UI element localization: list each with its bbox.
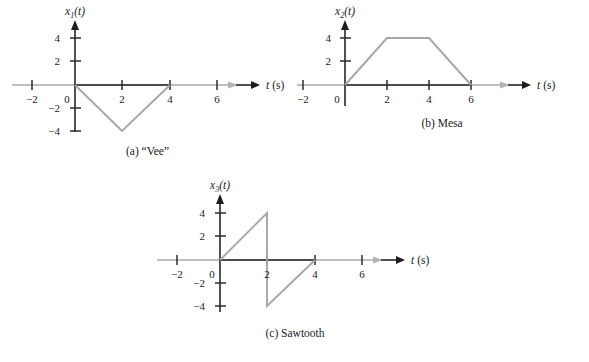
vee-plot-svg: −2 2 4 6 0 4 2 −2 −4 x1(t) t(s): [0, 0, 295, 140]
x-tick-label-4: 4: [312, 268, 318, 280]
mesa-plot-svg: −2 2 4 6 0 4 2 x2(t) t(s): [295, 0, 589, 112]
x-axis-label: t(s): [266, 79, 285, 92]
y-axis-arrowhead: [341, 20, 349, 30]
x-axis-arrowhead: [396, 256, 405, 264]
y-axis-arrowhead: [71, 20, 79, 30]
x-axis-arrowhead: [251, 81, 260, 89]
x-axis-label-unit: (s): [417, 254, 429, 267]
waveform-mesa: [345, 38, 471, 85]
origin-label: 0: [334, 93, 340, 105]
x-tick-label-4: 4: [167, 93, 173, 105]
y-tick-label-4: 4: [326, 32, 332, 44]
y-tick-label-4: 4: [200, 207, 206, 219]
y-axis-arrowhead: [216, 194, 224, 204]
x-tick-label-2: 2: [119, 93, 125, 105]
sawtooth-plot-svg: −2 2 4 6 0 4 2 −2 −4 x3(t) t(s): [145, 172, 445, 322]
y-axis-label-arg: (t): [74, 5, 85, 18]
y-tick-label-minus2: −2: [48, 102, 60, 114]
waveform-vee: [75, 85, 170, 131]
x-tick-label-6: 6: [214, 93, 220, 105]
panel-caption-mesa: (b) Mesa: [295, 117, 589, 129]
panel-caption-vee: (a) “Vee”: [0, 145, 295, 157]
x-tick-label-4: 4: [426, 93, 432, 105]
x-tick-label-minus2: −2: [26, 93, 38, 105]
y-axis-label-arg: (t): [219, 179, 230, 192]
x-tick-label-2: 2: [264, 268, 270, 280]
plot-panel-sawtooth: −2 2 4 6 0 4 2 −2 −4 x3(t) t(s): [145, 172, 445, 322]
x-axis-label-var: t: [411, 254, 415, 266]
x-tick-label-minus2: −2: [171, 268, 183, 280]
x-axis-label-unit: (s): [543, 79, 555, 92]
y-tick-label-2: 2: [200, 230, 206, 242]
x-tick-label-2: 2: [384, 93, 390, 105]
y-axis-label: x1(t): [64, 5, 85, 20]
y-tick-label-minus4: −4: [48, 125, 60, 137]
y-axis-label-arg: (t): [344, 5, 355, 18]
origin-label: 0: [64, 93, 70, 105]
signal-waveform-figure: −2 2 4 6 0 4 2 −2 −4 x1(t) t(s) (a) “Vee…: [0, 0, 589, 362]
x-axis-label: t(s): [537, 79, 556, 92]
y-tick-label-minus4: −4: [193, 300, 205, 312]
x-tick-label-6: 6: [359, 268, 365, 280]
x-axis-arrowhead: [522, 81, 531, 89]
y-tick-label-4: 4: [55, 32, 61, 44]
x-axis-label-var: t: [266, 79, 270, 91]
x-tick-label-6: 6: [468, 93, 474, 105]
x-axis-label: t(s): [411, 254, 430, 267]
x-axis-label-var: t: [537, 79, 541, 91]
y-tick-label-2: 2: [326, 55, 332, 67]
y-axis-label: x2(t): [334, 5, 355, 20]
origin-label: 0: [209, 268, 215, 280]
plot-panel-vee: −2 2 4 6 0 4 2 −2 −4 x1(t) t(s): [0, 0, 295, 140]
x-tick-label-minus2: −2: [297, 93, 309, 105]
panel-caption-sawtooth: (c) Sawtooth: [145, 327, 445, 339]
plot-panel-mesa: −2 2 4 6 0 4 2 x2(t) t(s): [295, 0, 589, 112]
x-axis-label-unit: (s): [272, 79, 284, 92]
y-axis-label: x3(t): [209, 179, 230, 194]
y-tick-label-2: 2: [55, 55, 61, 67]
y-tick-label-minus2: −2: [193, 277, 205, 289]
